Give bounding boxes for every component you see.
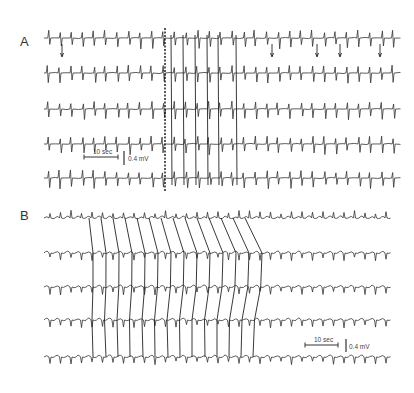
- vertical-link-a: [236, 35, 237, 185]
- scale-a-amp: 0.4 mV: [128, 155, 149, 162]
- scale-b-time: 10 sec: [314, 336, 334, 343]
- vertical-link-a: [171, 35, 172, 185]
- conduction-link-b: [221, 218, 236, 357]
- figure-canvas: 10 sec 0.4 mV 10 sec 0.4 mV: [0, 0, 414, 393]
- trace-a-2: [44, 65, 401, 83]
- trace-a-5: [44, 170, 401, 189]
- vertical-link-a: [218, 35, 219, 185]
- scale-bar-a: 10 sec 0.4 mV: [84, 148, 149, 165]
- arrow-down-icon: [379, 44, 382, 57]
- panel-a-traces: [44, 28, 401, 192]
- conduction-link-b: [185, 218, 197, 357]
- scale-a-time: 10 sec: [93, 148, 113, 155]
- scale-bar-b: 10 sec 0.4 mV: [305, 336, 370, 352]
- arrow-down-icon: [271, 44, 274, 57]
- arrow-down-icon: [61, 44, 64, 57]
- vertical-link-a: [207, 35, 208, 185]
- trace-a-3: [44, 101, 401, 120]
- vertical-link-a: [183, 35, 184, 185]
- trace-b-1: [44, 210, 391, 218]
- trace-a-1: [44, 30, 401, 49]
- panel-b-traces: [44, 210, 391, 364]
- trace-b-3: [44, 285, 391, 295]
- scale-b-amp: 0.4 mV: [349, 343, 370, 350]
- trace-b-2: [44, 251, 391, 261]
- arrow-down-icon: [316, 44, 319, 57]
- vertical-link-a: [195, 35, 196, 185]
- arrow-down-icon: [339, 44, 342, 57]
